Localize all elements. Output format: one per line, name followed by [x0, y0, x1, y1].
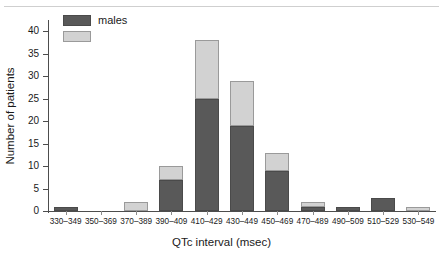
bar-370–389 [124, 202, 148, 211]
y-axis-tick [43, 211, 48, 212]
x-axis-tick-label: 390–409 [156, 217, 188, 226]
bar-430–449 [230, 81, 254, 212]
x-axis-tick-label: 350–369 [85, 217, 117, 226]
bar-segment-males [301, 207, 325, 212]
y-axis-tick-label: 15 [28, 139, 39, 149]
x-axis-tick-label: 470–489 [297, 217, 329, 226]
x-axis-tick [277, 211, 278, 215]
x-axis-tick [313, 211, 314, 215]
x-axis-tick [418, 211, 419, 215]
bar-410–429 [195, 40, 219, 211]
legend-item-secondary [63, 30, 127, 43]
bar-segment-males [195, 99, 219, 212]
bar-segment-secondary [159, 166, 183, 180]
bar-segment-secondary [406, 207, 430, 212]
legend-swatch-secondary [63, 31, 91, 42]
bar-segment-males [159, 180, 183, 212]
x-axis-tick-label: 490–509 [332, 217, 364, 226]
x-axis-tick [101, 211, 102, 215]
bar-segment-males [371, 198, 395, 212]
y-axis-tick [43, 189, 48, 190]
x-axis-tick-label: 330–349 [50, 217, 82, 226]
y-axis-tick [43, 144, 48, 145]
y-axis-tick [43, 99, 48, 100]
bar-530–549 [406, 207, 430, 212]
x-axis-tick [242, 211, 243, 215]
x-axis-tick-label: 450–469 [261, 217, 293, 226]
y-axis-tick [43, 31, 48, 32]
legend-swatch-males [63, 15, 91, 26]
y-axis-tick [43, 54, 48, 55]
y-axis-tick-label: 20 [28, 116, 39, 126]
x-axis-tick [171, 211, 172, 215]
y-axis-tick-label: 40 [28, 26, 39, 36]
x-axis-tick [383, 211, 384, 215]
x-axis-tick-label: 530–549 [402, 217, 434, 226]
y-axis-tick-label: 10 [28, 161, 39, 171]
bar-390–409 [159, 166, 183, 211]
bar-segment-males [54, 207, 78, 212]
legend-item-males: males [63, 14, 127, 27]
y-axis-tick-label: 30 [28, 71, 39, 81]
bar-490–509 [336, 207, 360, 212]
bar-segment-secondary [124, 202, 148, 211]
x-axis-tick [136, 211, 137, 215]
y-axis-tick-label: 5 [33, 184, 39, 194]
bar-segment-secondary [265, 153, 289, 171]
plot-area: 0510152025303540 [48, 22, 436, 211]
y-axis-tick-label: 35 [28, 49, 39, 59]
bar-330–349 [54, 207, 78, 212]
bar-segment-secondary [195, 40, 219, 99]
bar-segment-males [265, 171, 289, 212]
y-axis-tick-label: 25 [28, 94, 39, 104]
x-axis-tick [348, 211, 349, 215]
y-axis-tick [43, 76, 48, 77]
y-axis-tick-label: 0 [33, 206, 39, 216]
bar-segment-secondary [230, 81, 254, 126]
y-axis-tick [43, 166, 48, 167]
histogram-figure: Number of patients 0510152025303540 QTc … [0, 0, 443, 261]
legend-label-males: males [98, 15, 127, 26]
bar-470–489 [301, 202, 325, 211]
chart-legend: males [63, 14, 127, 46]
y-axis-tick [43, 121, 48, 122]
x-axis-tick-label: 370–389 [120, 217, 152, 226]
x-axis-tick-label: 510–529 [367, 217, 399, 226]
x-axis-title: QTc interval (msec) [0, 236, 443, 248]
x-axis-tick [207, 211, 208, 215]
x-axis-tick-label: 430–449 [226, 217, 258, 226]
bar-510–529 [371, 198, 395, 212]
bar-segment-males [230, 126, 254, 212]
y-axis-title: Number of patients [4, 67, 16, 164]
bar-segment-males [336, 207, 360, 212]
bar-450–469 [265, 153, 289, 212]
x-axis-tick [66, 211, 67, 215]
x-axis-tick-label: 410–429 [191, 217, 223, 226]
